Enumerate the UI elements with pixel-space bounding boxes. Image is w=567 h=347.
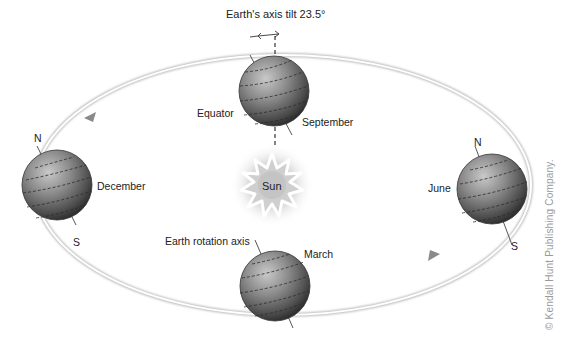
orbit-arrow-icon [84, 112, 96, 122]
june-label: June [428, 183, 451, 194]
december-north-label: N [34, 133, 42, 144]
earth-december [22, 146, 92, 225]
rotation-axis-label: Earth rotation axis [165, 236, 250, 247]
axis-tilt-label: Earth's axis tilt 23.5° [226, 9, 325, 20]
june-south-label: S [511, 241, 518, 252]
december-south-label: S [73, 237, 80, 248]
march-label: March [304, 249, 333, 260]
diagram-graphics [0, 0, 567, 347]
earth-september [239, 31, 309, 148]
orbit-arrow-icon [428, 250, 440, 261]
copyright-notice: © Kendall Hunt Publishing Company. [544, 159, 555, 330]
june-north-label: N [474, 137, 482, 148]
equator-label: Equator [197, 108, 234, 119]
december-label: December [97, 181, 145, 192]
september-label: September [302, 117, 353, 128]
sun-label: Sun [262, 181, 282, 192]
seasons-diagram: Earth's axis tilt 23.5° Equator Septembe… [0, 0, 567, 347]
